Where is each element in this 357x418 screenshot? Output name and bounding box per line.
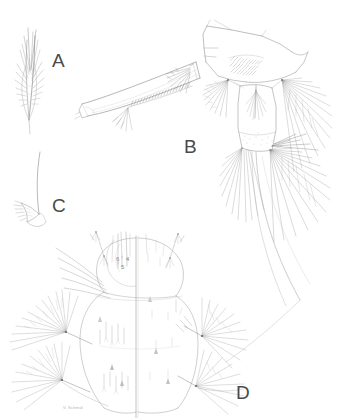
panel-b-drawing bbox=[75, 20, 332, 306]
panel-d-drawing bbox=[10, 231, 300, 418]
panel-label-d: D bbox=[236, 383, 250, 402]
panel-a-drawing bbox=[15, 28, 44, 134]
panel-label-b: B bbox=[184, 137, 197, 156]
seta-number-5: 5 bbox=[121, 264, 124, 270]
panel-c-drawing bbox=[14, 152, 46, 227]
seta-number-4: 4 bbox=[126, 256, 129, 262]
panel-label-a: A bbox=[52, 51, 65, 70]
artist-credit: V. Schmid bbox=[63, 406, 83, 410]
illustration-plate: A B C D 6 4 5 V. Schmid bbox=[0, 0, 357, 418]
seta-number-6: 6 bbox=[116, 256, 119, 262]
panel-label-c: C bbox=[52, 196, 66, 215]
